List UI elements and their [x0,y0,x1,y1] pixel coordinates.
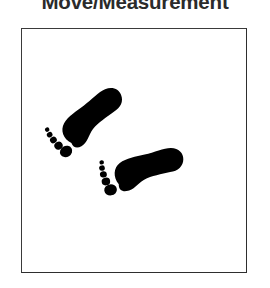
page-root: Move/Measurement [0,0,270,288]
illustration-frame [21,28,247,273]
footprints-illustration [22,29,246,272]
footprint-upper-left [42,83,135,160]
footprint-lower-right [98,146,187,196]
page-title-text: Move/Measurement [41,0,228,13]
page-title: Move/Measurement [0,0,270,13]
